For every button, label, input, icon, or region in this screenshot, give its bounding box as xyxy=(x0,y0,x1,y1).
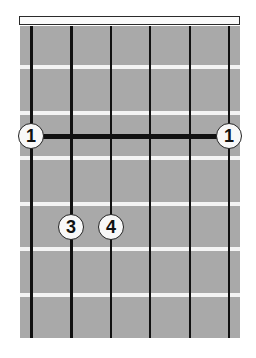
barre-line xyxy=(31,134,229,139)
fret-line-2 xyxy=(20,111,240,115)
fretboard xyxy=(20,26,240,338)
finger-marker-1-low: 1 xyxy=(18,123,44,149)
fret-line-1 xyxy=(20,65,240,69)
finger-marker-1-high: 1 xyxy=(216,123,242,149)
string-4 xyxy=(149,26,152,338)
string-3 xyxy=(110,26,113,338)
finger-label: 4 xyxy=(106,218,116,236)
fret-line-4 xyxy=(20,202,240,206)
fret-line-6 xyxy=(20,293,240,297)
string-5 xyxy=(189,26,191,338)
fret-line-5 xyxy=(20,247,240,251)
string-6 xyxy=(228,26,230,338)
string-1 xyxy=(30,26,33,338)
finger-label: 1 xyxy=(26,127,36,145)
string-2 xyxy=(70,26,73,338)
finger-marker-3: 3 xyxy=(58,214,84,240)
nut xyxy=(19,16,240,25)
fret-line-3 xyxy=(20,156,240,160)
finger-marker-4: 4 xyxy=(98,214,124,240)
finger-label: 1 xyxy=(224,127,234,145)
finger-label: 3 xyxy=(66,218,76,236)
